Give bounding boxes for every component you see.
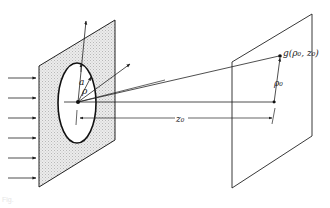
- figure-caption: Fig.: [2, 196, 14, 203]
- observation-point: [278, 54, 282, 58]
- aperture-center-point: [76, 100, 80, 104]
- axis-point-observation-plane: [273, 101, 276, 104]
- incident-wave-arrows: [8, 78, 36, 178]
- diffraction-diagram: a ρ g(ρ₀, z₀) ρ₀ z₀: [0, 0, 330, 208]
- label-observation-point: g(ρ₀, z₀): [283, 48, 319, 58]
- label-rho0: ρ₀: [273, 78, 283, 88]
- z0-dimension-end-tick: [272, 108, 275, 124]
- label-rho: ρ: [81, 86, 88, 96]
- label-z0: z₀: [175, 114, 185, 124]
- observation-plane: [232, 14, 312, 188]
